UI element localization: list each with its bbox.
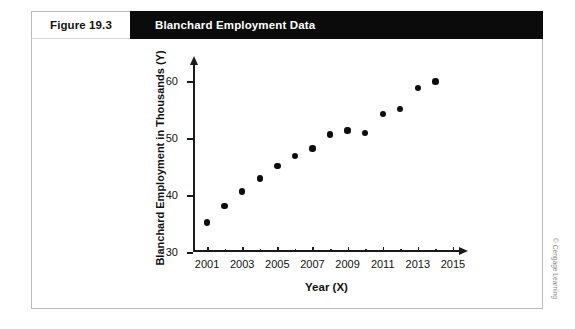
x-axis-arrow-icon — [459, 247, 468, 255]
x-axis-tick: 2011 — [383, 247, 385, 252]
data-point — [380, 111, 386, 117]
x-axis-tick — [400, 249, 402, 252]
y-axis-tick: 30 — [187, 252, 193, 254]
x-axis-tick-label: 2001 — [195, 258, 219, 270]
data-point — [292, 153, 298, 159]
data-point — [362, 130, 368, 136]
figure-number-box: Figure 19.3 — [31, 11, 130, 39]
x-axis-tick: 2001 — [207, 247, 209, 252]
data-point — [257, 175, 263, 181]
y-axis-tick: 50 — [187, 138, 193, 140]
x-axis-tick-label: 2009 — [335, 258, 359, 270]
x-axis-tick-label: 2013 — [406, 258, 430, 270]
y-axis-arrow-icon — [190, 56, 198, 65]
x-axis-line — [193, 250, 460, 252]
figure-title-box: Blanchard Employment Data — [130, 11, 543, 39]
credit-label: © Cengage Learning — [552, 238, 559, 299]
y-axis-tick-label: 50 — [166, 132, 178, 144]
data-point — [309, 145, 315, 151]
x-axis-tick-label: 2003 — [230, 258, 254, 270]
x-axis-tick: 2003 — [242, 247, 244, 252]
x-axis-tick-label: 2015 — [441, 258, 465, 270]
x-axis-tick: 2013 — [418, 247, 420, 252]
x-axis-title-label: Year (X) — [305, 281, 348, 293]
y-axis-tick-label: 60 — [166, 75, 178, 87]
x-axis-tick — [295, 249, 297, 252]
data-point — [344, 127, 350, 133]
x-axis-tick: 2007 — [312, 247, 314, 252]
data-point — [204, 219, 210, 225]
data-point — [432, 78, 438, 84]
x-axis-tick: 2009 — [348, 247, 350, 252]
credit-line: © Cengage Learning — [548, 228, 562, 308]
y-axis-tick: 60 — [187, 81, 193, 83]
figure-number-label: Figure 19.3 — [50, 19, 112, 31]
data-point — [397, 106, 403, 112]
data-point — [239, 188, 245, 194]
data-point — [274, 163, 280, 169]
x-axis-tick-label: 2011 — [371, 258, 395, 270]
scatter-plot: 30405060 2001200320052007200920112013201… — [193, 64, 460, 252]
figure-header: Figure 19.3 Blanchard Employment Data — [31, 11, 543, 39]
y-axis-title: Blanchard Employment in Thousands (Y) — [152, 64, 168, 252]
figure-title-label: Blanchard Employment Data — [130, 19, 315, 31]
x-axis-tick — [225, 249, 227, 252]
x-axis-tick-label: 2005 — [265, 258, 289, 270]
y-axis-tick-label: 40 — [166, 189, 178, 201]
x-axis-tick — [435, 249, 437, 252]
x-axis-tick — [365, 249, 367, 252]
x-axis-title: Year (X) — [193, 277, 460, 295]
y-axis-tick: 40 — [187, 195, 193, 197]
data-point — [327, 131, 333, 137]
y-axis-title-label: Blanchard Employment in Thousands (Y) — [154, 50, 166, 265]
data-point — [221, 203, 227, 209]
x-axis-tick — [260, 249, 262, 252]
y-axis-tick-label: 30 — [166, 246, 178, 258]
x-axis-tick — [330, 249, 332, 252]
data-point — [415, 85, 421, 91]
x-axis-tick-label: 2007 — [300, 258, 324, 270]
x-axis-tick: 2015 — [453, 247, 455, 252]
y-axis-line — [193, 64, 195, 252]
x-axis-tick: 2005 — [277, 247, 279, 252]
